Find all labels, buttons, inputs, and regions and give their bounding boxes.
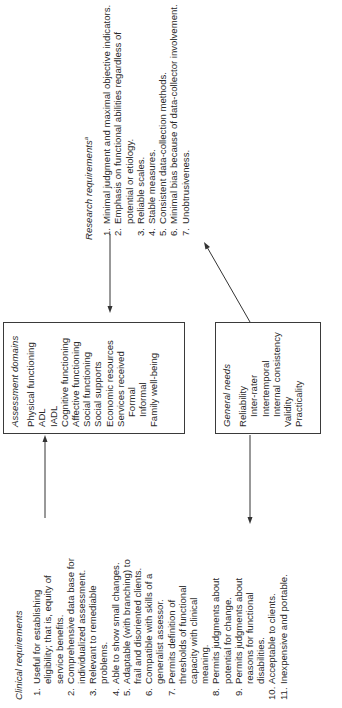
connector-arrows	[0, 0, 342, 708]
arrow-research-to-domains	[108, 234, 113, 313]
arrow-general-to-research	[204, 242, 250, 322]
diagram-canvas: Clinical requirements 1. Useful for esta…	[0, 0, 342, 708]
arrow-general-to-clinical	[248, 435, 253, 524]
arrow-clinical-to-domains	[43, 435, 48, 518]
